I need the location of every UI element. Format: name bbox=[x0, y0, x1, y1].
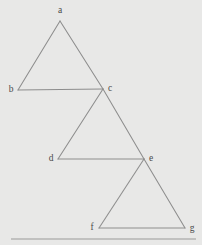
vertex-label-b: b bbox=[9, 84, 14, 94]
edge-c-d bbox=[58, 89, 103, 159]
triangle-chain-svg: abcdefg bbox=[0, 0, 202, 245]
vertex-label-d: d bbox=[49, 153, 54, 163]
edges-group bbox=[18, 21, 185, 228]
edge-a-c bbox=[60, 21, 103, 89]
vertex-labels-group: abcdefg bbox=[9, 5, 195, 233]
edge-c-e bbox=[103, 89, 144, 159]
vertex-label-c: c bbox=[108, 83, 112, 93]
edge-b-c bbox=[18, 89, 103, 90]
edge-e-g bbox=[144, 159, 185, 228]
vertex-label-f: f bbox=[90, 222, 94, 232]
diagram-canvas: abcdefg bbox=[0, 0, 202, 245]
vertex-label-a: a bbox=[58, 5, 63, 15]
edge-a-b bbox=[18, 21, 60, 90]
edge-e-f bbox=[99, 159, 144, 228]
vertex-label-g: g bbox=[190, 223, 195, 233]
vertex-label-e: e bbox=[149, 153, 153, 163]
